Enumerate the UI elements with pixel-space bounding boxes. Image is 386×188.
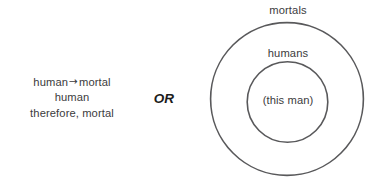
syllogism-text-block: human→mortal human therefore, mortal: [8, 74, 136, 121]
syllogism-line-1: human→mortal: [8, 74, 136, 90]
label-humans: humans: [232, 47, 344, 60]
syllogism-consequent: mortal: [79, 76, 111, 88]
label-this-man: (this man): [240, 94, 336, 107]
diagram-canvas: human→mortal human therefore, mortal OR …: [0, 0, 386, 188]
rightwards-arrow-icon: →: [68, 75, 79, 87]
syllogism-antecedent: human: [33, 76, 68, 88]
label-mortals: mortals: [228, 4, 348, 17]
or-connector-label: OR: [149, 91, 179, 106]
syllogism-line-3: therefore, mortal: [8, 106, 136, 121]
syllogism-line-2: human: [8, 90, 136, 105]
